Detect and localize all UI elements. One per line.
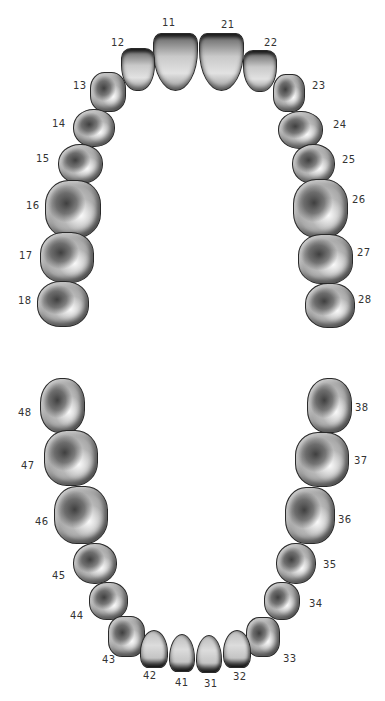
tooth-38 [307, 378, 352, 433]
tooth-13 [90, 72, 126, 112]
tooth-label-23: 23 [312, 81, 326, 91]
tooth-label-32: 32 [233, 672, 247, 682]
tooth-label-18: 18 [18, 296, 32, 306]
tooth-label-43: 43 [102, 655, 116, 665]
dental-chart: 11211222132314241525162617271828 4838473… [0, 0, 385, 701]
tooth-label-16: 16 [26, 201, 40, 211]
tooth-16 [45, 180, 101, 238]
tooth-33 [246, 617, 280, 657]
tooth-26 [293, 179, 348, 238]
tooth-label-34: 34 [309, 599, 323, 609]
tooth-label-38: 38 [355, 403, 369, 413]
tooth-label-36: 36 [338, 515, 352, 525]
tooth-label-22: 22 [264, 38, 278, 48]
tooth-label-47: 47 [21, 461, 35, 471]
tooth-11 [153, 33, 198, 91]
tooth-23 [273, 74, 305, 112]
tooth-31 [196, 635, 222, 673]
tooth-44 [89, 582, 128, 620]
tooth-32 [223, 630, 251, 668]
tooth-41 [169, 634, 195, 672]
tooth-28 [305, 283, 355, 328]
tooth-37 [295, 432, 349, 487]
tooth-label-21: 21 [221, 20, 235, 30]
tooth-label-44: 44 [70, 611, 84, 621]
tooth-36 [285, 487, 335, 544]
tooth-label-15: 15 [36, 154, 50, 164]
tooth-47 [44, 430, 98, 486]
tooth-label-25: 25 [342, 155, 356, 165]
tooth-label-35: 35 [323, 560, 337, 570]
tooth-label-42: 42 [143, 671, 157, 681]
tooth-label-27: 27 [357, 248, 371, 258]
tooth-label-31: 31 [204, 679, 218, 689]
tooth-17 [40, 232, 94, 283]
tooth-12 [121, 48, 155, 91]
tooth-label-28: 28 [358, 295, 372, 305]
tooth-48 [40, 378, 85, 433]
tooth-21 [199, 33, 244, 91]
tooth-label-24: 24 [333, 120, 347, 130]
tooth-25 [292, 144, 335, 184]
tooth-label-37: 37 [354, 456, 368, 466]
tooth-label-17: 17 [19, 251, 33, 261]
tooth-45 [73, 543, 117, 584]
tooth-label-41: 41 [175, 678, 189, 688]
tooth-label-11: 11 [162, 18, 176, 28]
tooth-label-14: 14 [52, 119, 66, 129]
tooth-14 [73, 109, 115, 147]
tooth-35 [276, 543, 316, 584]
tooth-label-45: 45 [52, 571, 66, 581]
tooth-label-33: 33 [283, 654, 297, 664]
tooth-label-48: 48 [18, 408, 32, 418]
tooth-42 [140, 630, 168, 668]
tooth-label-12: 12 [111, 38, 125, 48]
tooth-label-13: 13 [73, 81, 87, 91]
tooth-18 [37, 281, 89, 327]
tooth-15 [58, 144, 103, 184]
tooth-label-46: 46 [35, 517, 49, 527]
tooth-46 [54, 486, 108, 544]
tooth-27 [298, 234, 353, 284]
tooth-label-26: 26 [352, 195, 366, 205]
tooth-34 [264, 582, 300, 620]
tooth-22 [243, 50, 277, 92]
